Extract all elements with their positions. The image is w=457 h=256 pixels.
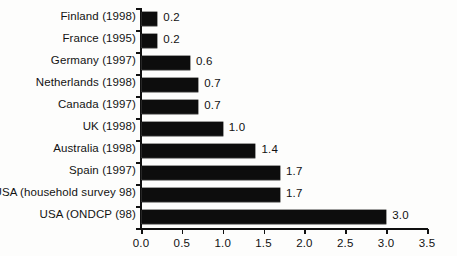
bar-value-label: 0.7	[204, 77, 221, 89]
bar-value-label: 0.7	[204, 99, 221, 111]
bar-row: UK (1998)1.0	[141, 118, 427, 140]
x-axis-tick-label: 2.5	[337, 237, 354, 249]
x-axis-tick	[141, 229, 143, 234]
category-label-wrap: Netherlands (1998)	[5, 74, 136, 96]
category-label-wrap: Finland (1998)	[5, 8, 136, 30]
x-axis-tick	[223, 229, 225, 234]
category-label: Canada (1997)	[58, 98, 136, 110]
y-axis-tick	[136, 74, 141, 76]
category-label-wrap: USA (ONDCP (98)	[5, 206, 136, 228]
bar	[141, 78, 198, 92]
bar-value-label: 0.6	[196, 55, 213, 67]
category-label: Spain (1997)	[69, 164, 136, 176]
bar-row: Canada (1997)0.7	[141, 96, 427, 118]
bar-row: Finland (1998)0.2	[141, 8, 427, 30]
y-axis-tick	[136, 118, 141, 120]
bar-row: USA (ONDCP (98)3.0	[141, 206, 427, 228]
bar-row: USA (household survey 98)1.7	[141, 184, 427, 206]
category-label-wrap: UK (1998)	[5, 118, 136, 140]
bar	[141, 166, 280, 180]
bar-value-label: 0.2	[163, 33, 180, 45]
category-label-wrap: Australia (1998)	[5, 140, 136, 162]
category-label: USA (ONDCP (98)	[39, 208, 136, 220]
y-axis-tick	[136, 206, 141, 208]
y-axis-tick	[136, 96, 141, 98]
bar-row: Germany (1997)0.6	[141, 52, 427, 74]
x-axis-tick-label: 0.0	[133, 237, 150, 249]
bar-row: Spain (1997)1.7	[141, 162, 427, 184]
y-axis-tick	[136, 162, 141, 164]
bar-row: Australia (1998)1.4	[141, 140, 427, 162]
bar	[141, 100, 198, 114]
bar	[141, 144, 255, 158]
category-label: Germany (1997)	[51, 54, 136, 66]
x-axis-tick-label: 0.5	[174, 237, 191, 249]
bar-value-label: 3.0	[392, 209, 409, 221]
x-axis-tick	[345, 229, 347, 234]
x-axis-tick-label: 2.0	[296, 237, 313, 249]
x-axis-tick-label: 3.0	[378, 237, 395, 249]
bar	[141, 210, 386, 224]
bar-chart-figure: Finland (1998)0.2France (1995)0.2Germany…	[0, 0, 457, 256]
plot-area: Finland (1998)0.2France (1995)0.2Germany…	[141, 8, 427, 228]
bar-row: France (1995)0.2	[141, 30, 427, 52]
x-axis-tick	[304, 229, 306, 234]
bar-value-label: 1.4	[261, 143, 278, 155]
category-label-wrap: Germany (1997)	[5, 52, 136, 74]
bar-value-label: 0.2	[163, 11, 180, 23]
bar-value-label: 1.7	[286, 187, 303, 199]
x-axis-tick	[386, 229, 388, 234]
x-axis-tick-label: 1.5	[255, 237, 272, 249]
bar	[141, 56, 190, 70]
bar	[141, 122, 223, 136]
bar	[141, 188, 280, 202]
y-axis-tick	[136, 184, 141, 186]
x-axis-tick-label: 3.5	[419, 237, 436, 249]
category-label: Australia (1998)	[53, 142, 136, 154]
category-label: UK (1998)	[83, 120, 136, 132]
category-label: USA (household survey 98)	[0, 186, 136, 198]
y-axis-tick	[136, 30, 141, 32]
category-label-wrap: France (1995)	[5, 30, 136, 52]
x-axis-tick	[182, 229, 184, 234]
y-axis-tick	[136, 8, 141, 10]
bar	[141, 12, 157, 26]
bar	[141, 34, 157, 48]
x-axis-tick	[264, 229, 266, 234]
bar-row: Netherlands (1998)0.7	[141, 74, 427, 96]
category-label: Finland (1998)	[60, 10, 136, 22]
x-axis-tick-label: 1.0	[214, 237, 231, 249]
bar-value-label: 1.0	[229, 121, 246, 133]
category-label-wrap: Canada (1997)	[5, 96, 136, 118]
x-axis-tick	[427, 229, 429, 234]
category-label-wrap: USA (household survey 98)	[5, 184, 136, 206]
y-axis-tick	[136, 52, 141, 54]
category-label: Netherlands (1998)	[36, 76, 136, 88]
bar-value-label: 1.7	[286, 165, 303, 177]
y-axis-tick	[136, 140, 141, 142]
category-label-wrap: Spain (1997)	[5, 162, 136, 184]
category-label: France (1995)	[62, 32, 136, 44]
